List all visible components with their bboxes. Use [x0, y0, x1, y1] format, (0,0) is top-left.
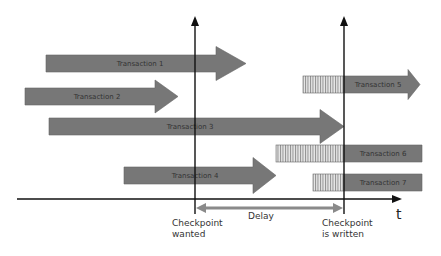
checkpoint-written-line2: is written: [322, 229, 364, 239]
transaction-1-label: Transaction 1: [116, 60, 164, 68]
transaction-2-label: Transaction 2: [73, 93, 121, 101]
checkpoint-written-label: Checkpoint is written: [322, 218, 376, 239]
transaction-7-hatched-segment: [313, 174, 344, 191]
checkpoint-wanted-label: Checkpoint wanted: [172, 218, 226, 239]
transaction-5-hatched-segment: [303, 76, 344, 93]
checkpoint-written-arrowhead: [340, 16, 348, 26]
time-axis-label: t: [396, 206, 402, 222]
transaction-3-label: Transaction 3: [166, 123, 214, 131]
transaction-2: Transaction 2: [25, 80, 178, 113]
checkpoint-diagram: Transaction 1Transaction 2Transaction 3T…: [0, 0, 441, 256]
transaction-5: Transaction 5: [303, 70, 420, 100]
transaction-7: Transaction 7: [313, 174, 422, 191]
delay-label: Delay: [248, 211, 274, 221]
transaction-4: Transaction 4: [124, 158, 276, 194]
transaction-5-label: Transaction 5: [354, 81, 402, 89]
checkpoint-wanted-arrowhead: [191, 16, 199, 26]
checkpoint-written-line1: Checkpoint: [322, 218, 373, 228]
transaction-3: Transaction 3: [49, 110, 344, 144]
checkpoint-wanted-line1: Checkpoint: [172, 218, 223, 228]
transaction-6-label: Transaction 6: [359, 150, 407, 158]
delay-arrowhead-right: [333, 203, 343, 213]
checkpoint-wanted-line2: wanted: [172, 229, 205, 239]
transaction-7-label: Transaction 7: [359, 179, 407, 187]
time-axis-arrowhead: [392, 195, 402, 203]
transaction-6-hatched-segment: [276, 145, 344, 162]
transaction-1: Transaction 1: [46, 47, 246, 81]
transaction-6: Transaction 6: [276, 145, 422, 162]
delay-arrowhead-left: [196, 203, 206, 213]
